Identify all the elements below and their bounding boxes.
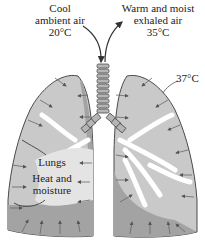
exhale-temperature: 35°C xyxy=(128,26,188,38)
heat-moisture-line2: moisture xyxy=(26,184,78,196)
exhale-arrow xyxy=(105,22,122,62)
lung-temperature: 37°C xyxy=(176,72,205,84)
exhale-label-line2: exhaled air xyxy=(118,14,198,26)
lungs-label: Lungs xyxy=(30,156,74,168)
exhale-label-line1: Warm and moist xyxy=(112,2,204,14)
heat-moisture-line1: Heat and xyxy=(26,172,78,184)
trachea xyxy=(97,64,109,113)
inhale-label-line1: Cool xyxy=(30,2,90,14)
inhale-temperature: 20°C xyxy=(30,26,90,38)
right-lung xyxy=(114,75,197,237)
inhale-label-line2: ambient air xyxy=(22,14,98,26)
